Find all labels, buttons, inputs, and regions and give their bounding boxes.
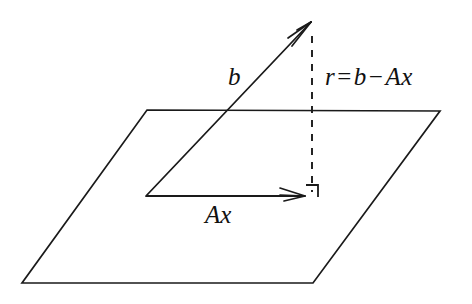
b-vector-label: b <box>228 64 241 89</box>
ax-vector-label: Ax <box>205 202 231 227</box>
residual-label-minus: − <box>367 63 386 90</box>
residual-label: r=b−Ax <box>325 64 413 89</box>
residual-label-equals: = <box>335 63 354 90</box>
residual-label-r: r <box>325 63 335 90</box>
diagram-canvas <box>0 0 472 304</box>
residual-label-b: b <box>354 63 367 90</box>
projection-diagram: b Ax r=b−Ax <box>0 0 472 304</box>
ax-vector-arrowhead <box>280 188 305 201</box>
b-vector-shaft <box>146 22 311 196</box>
residual-label-ax: Ax <box>385 63 412 90</box>
